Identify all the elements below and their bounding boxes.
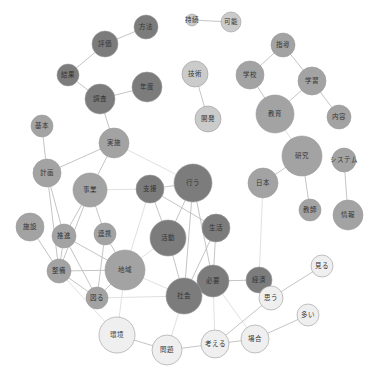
node-nihon[interactable]: 日本 [248, 168, 278, 198]
node-hakaru[interactable]: 図る [86, 287, 108, 309]
node-label: 環境 [110, 330, 124, 339]
node-ooi[interactable]: 多い [297, 304, 319, 326]
node-label: 必要 [206, 276, 220, 285]
node-kyouiku[interactable]: 教育 [256, 95, 294, 133]
node-kenkyuu[interactable]: 研究 [282, 136, 322, 176]
node-label: 評価 [98, 39, 112, 48]
node-label: 事業 [83, 185, 97, 194]
node-mondai[interactable]: 問題 [152, 335, 182, 365]
node-label: 社会 [177, 291, 191, 300]
node-label: 支援 [143, 184, 157, 193]
node-gakushuu[interactable]: 学習 [298, 67, 326, 95]
node-label: 基本 [35, 121, 49, 130]
node-kekka[interactable]: 結果 [57, 64, 79, 86]
node-jisshi[interactable]: 実施 [99, 128, 129, 158]
node-label: 図る [90, 294, 104, 302]
node-shakai[interactable]: 社会 [166, 278, 202, 314]
node-label: システム [330, 156, 358, 164]
node-label: 教育 [268, 109, 282, 118]
node-label: 見る [315, 262, 329, 270]
node-label: 調査 [93, 94, 107, 103]
node-label: 教師 [303, 205, 317, 214]
node-label: 生活 [209, 223, 223, 232]
node-label: 開発 [201, 114, 215, 123]
node-label: 年度 [140, 82, 154, 91]
node-nendo[interactable]: 年度 [132, 72, 162, 102]
node-label: 内容 [332, 112, 346, 121]
node-jouhou[interactable]: 情報 [333, 200, 363, 230]
node-hyouka[interactable]: 評価 [92, 31, 118, 57]
node-label: 学校 [243, 70, 257, 79]
node-label: 活動 [161, 233, 175, 242]
node-kihon[interactable]: 基本 [31, 115, 53, 137]
node-kangaeru[interactable]: 考える [201, 330, 229, 358]
node-label: 施設 [23, 222, 37, 231]
node-label: 思う [264, 294, 278, 302]
node-kanou[interactable]: 可能 [221, 12, 241, 32]
node-baai[interactable]: 場合 [241, 325, 269, 353]
node-label: 地域 [118, 265, 132, 274]
node-label: 推進 [57, 231, 71, 240]
node-label: 実施 [107, 138, 121, 147]
co-occurrence-network: 持続可能方法評価結果調査年度技術開発指導学校学習教育内容研究システム日本教師情報… [0, 0, 376, 374]
node-label: 指導 [276, 40, 290, 49]
node-jizoku[interactable]: 持続 [185, 14, 199, 26]
node-label: 考える [205, 340, 226, 348]
node-label: 場合 [248, 334, 262, 343]
node-kaihatsu[interactable]: 開発 [195, 106, 221, 132]
node-label: 可能 [224, 17, 238, 26]
node-label: 行う [186, 178, 200, 187]
node-houhou[interactable]: 方法 [134, 15, 158, 39]
node-label: 経済 [252, 275, 266, 284]
node-okonau[interactable]: 行う [174, 164, 212, 202]
node-label: 研究 [295, 151, 309, 160]
node-keikaku[interactable]: 計画 [33, 159, 61, 187]
node-label: 連携 [98, 229, 112, 238]
node-label: 計画 [40, 168, 54, 177]
node-omou[interactable]: 思う [259, 286, 283, 310]
node-gakkou[interactable]: 学校 [236, 61, 264, 89]
node-katsudou[interactable]: 活動 [150, 220, 186, 256]
node-label: 結果 [61, 70, 75, 79]
node-renkei[interactable]: 連携 [94, 223, 116, 245]
nodes-layer: 持続可能方法評価結果調査年度技術開発指導学校学習教育内容研究システム日本教師情報… [16, 12, 363, 365]
node-naiyou[interactable]: 内容 [327, 105, 351, 129]
node-gijutsu[interactable]: 技術 [182, 61, 208, 87]
node-kankyou[interactable]: 環境 [99, 317, 135, 353]
node-label: 日本 [256, 178, 270, 187]
node-label: 方法 [139, 22, 153, 31]
node-suishin[interactable]: 推進 [52, 224, 76, 248]
node-chiiki[interactable]: 地域 [105, 250, 145, 290]
node-jigyou[interactable]: 事業 [73, 173, 107, 207]
node-system[interactable]: システム [330, 148, 358, 172]
node-label: 学習 [305, 76, 319, 85]
node-shidou[interactable]: 指導 [271, 33, 295, 57]
node-miru[interactable]: 見る [311, 255, 333, 277]
node-chousa[interactable]: 調査 [85, 84, 115, 114]
node-label: 持続 [185, 15, 199, 24]
node-seikatsu[interactable]: 生活 [202, 214, 230, 242]
node-label: 整備 [52, 266, 66, 275]
node-label: 多い [301, 310, 315, 319]
node-label: 技術 [188, 69, 202, 78]
node-shisetsu[interactable]: 施設 [16, 213, 44, 241]
node-seibi[interactable]: 整備 [47, 259, 71, 283]
node-shien[interactable]: 支援 [136, 175, 164, 203]
node-label: 問題 [160, 346, 174, 354]
node-kyoushi[interactable]: 教師 [299, 199, 321, 221]
node-label: 情報 [341, 210, 355, 219]
